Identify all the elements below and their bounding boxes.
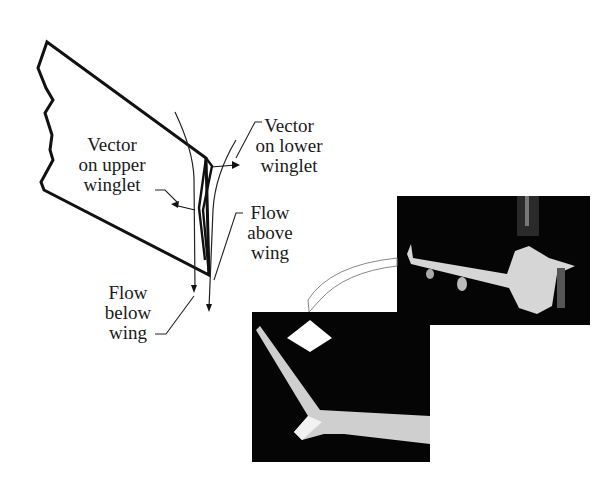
winglet-closeup-photo — [252, 312, 430, 462]
